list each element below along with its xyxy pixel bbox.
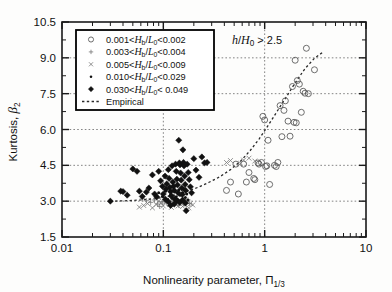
annotation-depth-condition: h/H0 > 2.5 <box>232 33 282 48</box>
point-open-circle <box>260 113 266 119</box>
point-diamond <box>188 190 194 196</box>
x-axis-title: Nonlinearity parameter, Π1/3 <box>143 274 285 289</box>
point-diamond <box>196 174 202 180</box>
legend-label: 0.010<Hb/L0<0.029 <box>106 71 186 83</box>
point-open-circle <box>311 67 317 73</box>
point-open-circle <box>285 118 291 124</box>
legend-label: 0.030<Hb/L0< 0.049 <box>106 84 188 96</box>
y-tick-label: 9.0 <box>40 52 56 64</box>
series-open-circle <box>223 45 317 197</box>
point-open-circle <box>243 179 249 185</box>
legend-label: 0.005<Hb/L0<0.009 <box>106 59 186 71</box>
point-diamond <box>191 156 197 162</box>
point-diamond <box>149 172 155 178</box>
point-open-circle <box>265 137 271 143</box>
point-open-circle <box>273 164 279 170</box>
point-open-circle <box>281 107 287 113</box>
y-tick-label: 4.5 <box>40 159 56 171</box>
x-tick-label: 0.01 <box>51 242 73 254</box>
point-diamond <box>199 154 205 160</box>
point-open-circle <box>294 78 300 84</box>
kurtosis-nonlinearity-chart: 1.53.04.56.07.59.010.50.010.1110 0.001<H… <box>0 0 392 292</box>
point-open-circle <box>296 81 302 87</box>
x-tick-label: 1 <box>261 242 267 254</box>
point-diamond <box>107 198 113 204</box>
x-tick-label: 0.1 <box>155 242 171 254</box>
chart-annotation: h/H0 > 2.5 <box>232 33 282 48</box>
point-open-circle <box>246 170 252 176</box>
point-diamond <box>176 137 182 143</box>
x-tick-label: 10 <box>360 242 373 254</box>
point-diamond <box>136 188 142 194</box>
point-diamond <box>193 167 199 173</box>
point-open-circle <box>298 109 304 115</box>
legend-label: Empirical <box>106 97 144 107</box>
y-axis-title: Kurtosis, β2 <box>5 102 22 161</box>
point-open-circle <box>252 177 258 183</box>
y-tick-label: 6.0 <box>40 124 56 136</box>
point-diamond <box>180 147 186 153</box>
y-tick-label: 7.5 <box>40 88 56 100</box>
point-small-dot <box>90 75 93 78</box>
point-open-circle <box>303 45 309 51</box>
legend-label: 0.003<Hb/L0<0.004 <box>106 46 186 58</box>
point-open-circle <box>227 179 233 185</box>
point-open-circle <box>287 133 293 139</box>
chart-canvas: 1.53.04.56.07.59.010.50.010.1110 0.001<H… <box>0 0 392 292</box>
point-small-dot <box>186 198 189 201</box>
point-diamond <box>156 168 162 174</box>
point-open-circle <box>279 134 285 140</box>
point-open-circle <box>223 187 229 193</box>
point-open-circle <box>267 181 273 187</box>
chart-legend: 0.001<Hb/L0<0.0020.003<Hb/L0<0.0040.005<… <box>76 30 214 110</box>
legend-label: 0.001<Hb/L0<0.002 <box>106 34 186 46</box>
point-diamond <box>186 177 192 183</box>
y-tick-label: 3.0 <box>40 195 56 207</box>
point-diamond <box>158 178 164 184</box>
point-open-circle <box>235 191 241 197</box>
y-tick-label: 10.5 <box>34 16 56 28</box>
